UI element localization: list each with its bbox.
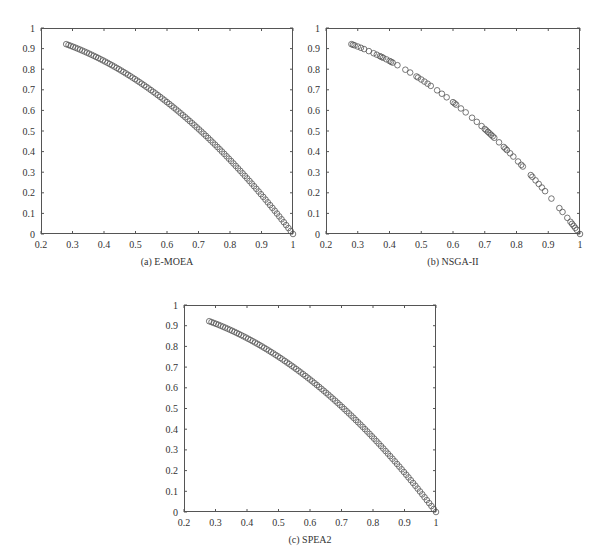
x-tick-label: 0.4	[241, 517, 254, 528]
scatter-points	[206, 318, 438, 514]
plot-frame	[185, 306, 436, 512]
x-tick-label: 0.5	[129, 239, 142, 250]
y-tick-label: 0.7	[23, 84, 36, 95]
y-tick-label: 0.2	[308, 187, 321, 198]
x-tick-label: 0.4	[98, 239, 111, 250]
y-tick-label: 0.7	[308, 84, 321, 95]
y-tick-label: 0.5	[23, 126, 36, 137]
y-tick-label: 0.9	[166, 320, 179, 331]
y-tick-label: 0	[30, 229, 35, 240]
x-tick-label: 0.8	[367, 517, 380, 528]
y-tick-label: 0.4	[23, 146, 36, 157]
y-tick-label: 0.2	[23, 187, 36, 198]
chart-panel-b: 0.20.30.40.50.60.70.80.9100.10.20.30.40.…	[326, 28, 580, 234]
y-tick-label: 0.9	[308, 43, 321, 54]
x-tick-label: 0.6	[447, 239, 460, 250]
y-tick-label: 0.2	[166, 465, 179, 476]
x-tick-label: 0.9	[255, 239, 268, 250]
y-tick-label: 1	[173, 300, 178, 311]
chart-panel-a: 0.20.30.40.50.60.70.80.9100.10.20.30.40.…	[41, 28, 293, 234]
x-tick-label: 0.5	[415, 239, 428, 250]
y-tick-label: 0.6	[166, 382, 179, 393]
caption-c: (c) SPEA2	[184, 534, 436, 545]
x-tick-label: 0.7	[335, 517, 348, 528]
x-tick-label: 0.7	[479, 239, 492, 250]
x-tick-label: 0.9	[398, 517, 411, 528]
x-tick-label: 0.8	[510, 239, 523, 250]
scatter-points	[63, 41, 295, 236]
chart-panel-c: 0.20.30.40.50.60.70.80.9100.10.20.30.40.…	[184, 305, 436, 512]
y-tick-label: 0.3	[166, 444, 179, 455]
x-tick-label: 0.3	[352, 239, 365, 250]
caption-a: (a) E-MOEA	[41, 256, 293, 267]
x-tick-label: 1	[434, 517, 439, 528]
y-tick-label: 0.5	[308, 126, 321, 137]
x-tick-label: 0.3	[209, 517, 222, 528]
x-tick-label: 1	[578, 239, 583, 250]
y-tick-label: 0	[315, 229, 320, 240]
y-tick-label: 0	[173, 507, 178, 518]
y-tick-label: 0.1	[308, 208, 321, 219]
y-tick-label: 0.8	[308, 64, 321, 75]
caption-b: (b) NSGA-II	[326, 256, 580, 267]
y-tick-label: 0.6	[308, 105, 321, 116]
plot-frame	[327, 29, 580, 234]
x-tick-label: 0.5	[272, 517, 285, 528]
scatter-points	[349, 41, 583, 236]
y-tick-label: 0.8	[166, 341, 179, 352]
x-tick-label: 0.2	[320, 239, 333, 250]
x-tick-label: 0.4	[383, 239, 396, 250]
y-tick-label: 0.3	[23, 167, 36, 178]
x-tick-label: 0.3	[66, 239, 79, 250]
y-tick-label: 0.3	[308, 167, 321, 178]
x-tick-label: 0.8	[224, 239, 237, 250]
y-tick-label: 0.4	[308, 146, 321, 157]
plot-frame	[42, 29, 293, 234]
x-tick-label: 0.7	[192, 239, 205, 250]
y-tick-label: 0.1	[23, 208, 36, 219]
y-tick-label: 0.8	[23, 64, 36, 75]
x-tick-label: 0.6	[161, 239, 174, 250]
y-tick-label: 1	[30, 23, 35, 34]
x-tick-label: 0.9	[542, 239, 555, 250]
x-tick-label: 0.2	[178, 517, 191, 528]
y-tick-label: 0.4	[166, 424, 179, 435]
y-tick-label: 0.5	[166, 403, 179, 414]
x-tick-label: 0.2	[35, 239, 48, 250]
y-tick-label: 0.1	[166, 486, 179, 497]
x-tick-label: 1	[291, 239, 296, 250]
y-tick-label: 0.7	[166, 362, 179, 373]
y-tick-label: 1	[315, 23, 320, 34]
y-tick-label: 0.9	[23, 43, 36, 54]
x-tick-label: 0.6	[304, 517, 317, 528]
y-tick-label: 0.6	[23, 105, 36, 116]
